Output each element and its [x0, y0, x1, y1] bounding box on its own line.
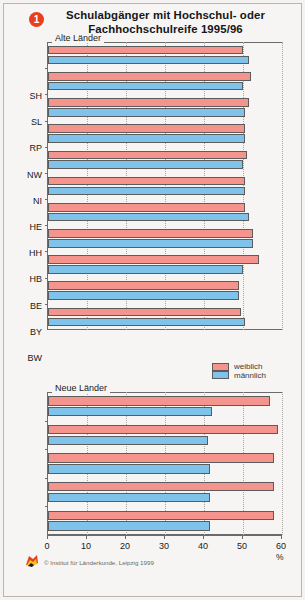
axis-tick-label-40: 40: [193, 541, 213, 551]
bar-maennlich-hh: [48, 213, 249, 222]
axis-tick-label-50: 50: [232, 541, 252, 551]
bar-maennlich-rp: [48, 108, 245, 117]
gridline-60: [282, 42, 283, 330]
axis-minor-tick: [45, 121, 48, 122]
title-line-2: Fachhochschulreife 1995/96: [88, 23, 243, 35]
bar-weiblich-sn: [48, 453, 274, 462]
axis-tick-10: [86, 535, 87, 539]
bar-maennlich-mv: [48, 493, 210, 502]
axis-minor-tick: [45, 94, 48, 95]
bar-weiblich-st: [48, 425, 278, 434]
category-label-sh: SH: [1, 91, 42, 101]
category-label-by: BY: [1, 327, 42, 337]
title-block: 1 Schulabgänger mit Hochschul- oder Fach…: [0, 8, 305, 37]
figure-number-badge: 1: [29, 12, 44, 27]
category-label-bw: BW: [1, 353, 42, 363]
axis-minor-tick: [45, 449, 48, 450]
bar-maennlich-ni: [48, 160, 243, 169]
bar-weiblich-hh: [48, 203, 245, 212]
bar-weiblich-bb: [48, 511, 274, 520]
bar-weiblich-sh: [48, 46, 243, 55]
figure-page: 1 Schulabgänger mit Hochschul- oder Fach…: [0, 0, 305, 600]
bar-maennlich-st: [48, 436, 208, 445]
axis-minor-tick: [45, 278, 48, 279]
category-label-rp: RP: [1, 143, 42, 153]
chart-plot-alte-laender: SHSLRPNWNIHEHHHBBEBYBW: [47, 42, 281, 330]
copyright-text: © Institut für Länderkunde, Leipzig 1999: [44, 559, 154, 566]
category-label-nw: NW: [1, 170, 42, 180]
axis-tick-20: [125, 535, 126, 539]
institute-logo-icon: [24, 554, 40, 568]
bar-maennlich-bw: [48, 318, 245, 327]
bar-weiblich-sl: [48, 72, 251, 81]
bar-weiblich-th: [48, 396, 270, 405]
panel-label-neue-laender: Neue Länder: [52, 383, 110, 393]
axis-minor-tick: [45, 199, 48, 200]
bar-weiblich-nw: [48, 124, 245, 133]
bar-maennlich-bb: [48, 521, 210, 530]
axis-minor-tick: [45, 304, 48, 305]
bar-maennlich-sl: [48, 82, 243, 91]
axis-minor-tick: [45, 478, 48, 479]
page-title: Schulabgänger mit Hochschul- oder Fachho…: [51, 8, 281, 36]
gridline-60: [282, 392, 283, 535]
category-label-sl: SL: [1, 117, 42, 127]
bar-maennlich-he: [48, 187, 245, 196]
axis-minor-tick: [45, 225, 48, 226]
title-line-1: Schulabgänger mit Hochschul- oder: [66, 9, 265, 21]
legend-swatch-maennlich: [212, 371, 229, 379]
axis-tick-label-30: 30: [154, 541, 174, 551]
axis-minor-tick: [45, 421, 48, 422]
bar-weiblich-hb: [48, 229, 253, 238]
legend-swatch: [212, 363, 229, 379]
bar-weiblich-ni: [48, 151, 247, 160]
axis-minor-tick: [45, 147, 48, 148]
axis-minor-tick: [45, 506, 48, 507]
bar-maennlich-th: [48, 407, 212, 416]
bar-weiblich-rp: [48, 98, 249, 107]
axis-tick-0: [47, 535, 48, 539]
panel-label-alte-laender: Alte Länder: [52, 33, 104, 43]
bar-maennlich-sn: [48, 464, 210, 473]
bar-weiblich-by: [48, 281, 239, 290]
category-label-be: BE: [1, 301, 42, 311]
axis-tick-40: [203, 535, 204, 539]
legend-label-maennlich: männlich: [234, 371, 266, 380]
legend-label-weiblich: weiblich: [234, 362, 262, 371]
bar-maennlich-sh: [48, 56, 249, 65]
axis-tick-60: [281, 535, 282, 539]
bar-weiblich-be: [48, 255, 259, 264]
axis-tick-label-0: 0: [37, 541, 57, 551]
axis-tick-label-10: 10: [76, 541, 96, 551]
axis-tick-label-60: 60: [271, 541, 291, 551]
category-label-he: HE: [1, 222, 42, 232]
axis-tick-label-20: 20: [115, 541, 135, 551]
category-label-hb: HB: [1, 274, 42, 284]
bar-weiblich-mv: [48, 482, 274, 491]
legend-swatch-weiblich: [212, 363, 229, 371]
bar-weiblich-bw: [48, 308, 241, 317]
axis-minor-tick: [45, 173, 48, 174]
axis-tick-30: [164, 535, 165, 539]
bar-maennlich-by: [48, 291, 239, 300]
bar-maennlich-hb: [48, 239, 253, 248]
axis-minor-tick: [45, 251, 48, 252]
bar-maennlich-be: [48, 265, 243, 274]
axis-tick-50: [242, 535, 243, 539]
category-label-hh: HH: [1, 248, 42, 258]
bar-maennlich-nw: [48, 134, 245, 143]
chart-plot-neue-laender: THSTSNMVBB: [47, 392, 281, 535]
category-label-ni: NI: [1, 196, 42, 206]
axis-unit-label: %: [276, 552, 284, 562]
bar-weiblich-he: [48, 177, 245, 186]
axis-minor-tick: [45, 68, 48, 69]
